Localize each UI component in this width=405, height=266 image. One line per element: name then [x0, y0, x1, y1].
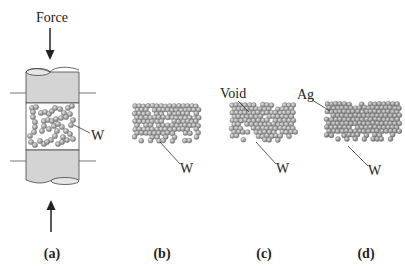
- label-void: Void: [220, 86, 246, 101]
- caption-d: (d): [357, 246, 374, 262]
- w-leader-c: [256, 142, 276, 164]
- w-particles-sintered-c: [229, 102, 298, 142]
- w-leader-d: [348, 146, 368, 166]
- label-ag: Ag: [297, 87, 314, 102]
- force-arrow-up-icon: [47, 200, 56, 232]
- caption-c: (c): [256, 246, 272, 262]
- caption-b: (b): [153, 246, 170, 262]
- label-w-c: W: [276, 161, 290, 176]
- force-label: Force: [36, 10, 68, 25]
- panel-b: W (b): [132, 103, 201, 262]
- w-particles-compacted-b: [132, 103, 201, 143]
- force-arrow-down-icon: [46, 28, 55, 60]
- w-ag-composite-d: [324, 101, 402, 141]
- label-w-b: W: [180, 161, 194, 176]
- caption-a: (a): [44, 246, 61, 262]
- lower-piston: [26, 150, 79, 185]
- w-leader-b: [160, 142, 180, 164]
- label-w-d: W: [368, 163, 382, 178]
- panel-c: Void W (c): [220, 86, 298, 262]
- label-w-a: W: [91, 128, 105, 143]
- diagram-canvas: Force: [0, 0, 405, 266]
- panel-a: Force: [10, 10, 105, 262]
- upper-piston: [26, 67, 79, 103]
- panel-d: Ag W (d): [297, 87, 402, 262]
